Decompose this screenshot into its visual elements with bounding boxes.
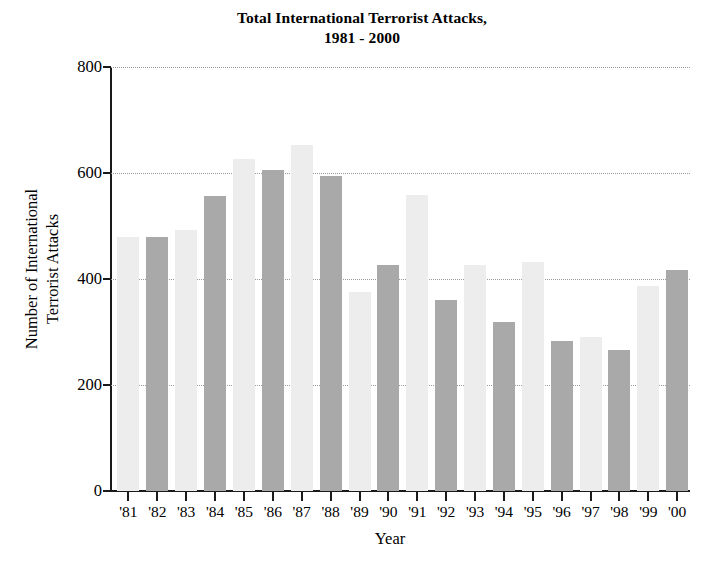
y-tick-200 bbox=[103, 384, 111, 386]
x-tick-87 bbox=[301, 492, 303, 501]
bar-99 bbox=[637, 286, 659, 491]
y-tick-0 bbox=[103, 490, 111, 492]
y-tick-800 bbox=[103, 66, 111, 68]
x-tick-93 bbox=[474, 492, 476, 501]
x-tick-95 bbox=[532, 492, 534, 501]
bar-84 bbox=[204, 196, 226, 491]
x-tick-89 bbox=[359, 492, 361, 501]
bar-91 bbox=[406, 195, 428, 491]
x-tick-88 bbox=[330, 492, 332, 501]
x-tick-90 bbox=[387, 492, 389, 501]
x-tick-98 bbox=[618, 492, 620, 501]
y-tick-600 bbox=[103, 172, 111, 174]
bar-87 bbox=[291, 145, 313, 491]
x-tick-label-00: '00 bbox=[657, 503, 697, 521]
bar-93 bbox=[464, 265, 486, 491]
x-axis-title: Year bbox=[330, 529, 450, 549]
y-tick-label-0: 0 bbox=[42, 483, 102, 499]
bar-83 bbox=[175, 230, 197, 491]
bar-85 bbox=[233, 159, 255, 491]
bar-86 bbox=[262, 170, 284, 491]
bar-94 bbox=[493, 322, 515, 491]
bar-00 bbox=[666, 270, 688, 491]
bar-96 bbox=[551, 341, 573, 491]
x-tick-00 bbox=[676, 492, 678, 501]
x-tick-91 bbox=[416, 492, 418, 501]
bar-98 bbox=[608, 350, 630, 491]
y-tick-400 bbox=[103, 278, 111, 280]
chart-title-line2: 1981 - 2000 bbox=[0, 28, 724, 48]
gridline-y-600 bbox=[110, 173, 690, 174]
x-tick-94 bbox=[503, 492, 505, 501]
x-tick-99 bbox=[647, 492, 649, 501]
bar-89 bbox=[349, 292, 371, 491]
x-tick-86 bbox=[272, 492, 274, 501]
x-tick-92 bbox=[445, 492, 447, 501]
y-axis-title-line1: Number of International bbox=[22, 189, 41, 349]
x-tick-97 bbox=[590, 492, 592, 501]
x-tick-96 bbox=[561, 492, 563, 501]
bar-97 bbox=[580, 337, 602, 491]
gridline-y-800 bbox=[110, 67, 690, 68]
y-tick-label-200: 200 bbox=[42, 377, 102, 393]
x-tick-83 bbox=[185, 492, 187, 501]
chart-page: Total International Terrorist Attacks, 1… bbox=[0, 0, 724, 581]
bar-81 bbox=[117, 237, 139, 491]
chart-title: Total International Terrorist Attacks, 1… bbox=[0, 8, 724, 48]
y-tick-label-800: 800 bbox=[42, 59, 102, 75]
x-tick-82 bbox=[156, 492, 158, 501]
x-tick-84 bbox=[214, 492, 216, 501]
x-tick-81 bbox=[127, 492, 129, 501]
bar-95 bbox=[522, 262, 544, 491]
bar-88 bbox=[320, 176, 342, 491]
x-tick-85 bbox=[243, 492, 245, 501]
y-tick-label-400: 400 bbox=[42, 271, 102, 287]
y-tick-label-600: 600 bbox=[42, 165, 102, 181]
bar-82 bbox=[146, 237, 168, 491]
bar-92 bbox=[435, 300, 457, 491]
chart-title-line1: Total International Terrorist Attacks, bbox=[237, 9, 487, 26]
bar-90 bbox=[377, 265, 399, 491]
plot-area bbox=[110, 67, 690, 491]
